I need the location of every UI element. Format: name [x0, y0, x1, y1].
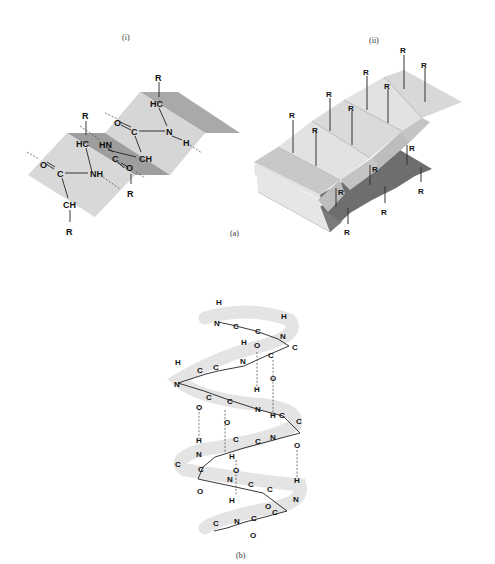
svg-text:C: C — [251, 514, 257, 523]
svg-text:N: N — [280, 332, 286, 341]
svg-text:R: R — [338, 188, 344, 197]
atom-h: H — [183, 138, 190, 148]
svg-text:H: H — [241, 338, 247, 347]
label-ii: (ii) — [369, 36, 379, 45]
svg-text:C: C — [227, 397, 233, 406]
atom-nh: NH — [90, 169, 103, 179]
svg-text:C: C — [213, 519, 219, 528]
svg-text:O: O — [254, 341, 260, 350]
svg-text:N: N — [174, 380, 180, 389]
alpha-helix: H N C C H N C O H N C O C C H N O C C O … — [174, 298, 302, 540]
svg-text:N: N — [293, 495, 299, 504]
atom-r: R — [66, 227, 73, 237]
svg-text:C: C — [268, 351, 274, 360]
svg-text:R: R — [384, 82, 390, 91]
svg-text:C: C — [255, 437, 261, 446]
svg-text:C: C — [198, 465, 204, 474]
atom-o: O — [114, 118, 121, 128]
svg-text:N: N — [270, 433, 276, 442]
svg-text:O: O — [250, 531, 256, 540]
atom-hn: HN — [99, 140, 112, 150]
atom-hc: HC — [150, 99, 163, 109]
svg-text:N: N — [227, 475, 233, 484]
svg-text:C: C — [272, 508, 278, 517]
label-a: (a) — [230, 229, 239, 238]
svg-text:C: C — [213, 363, 219, 372]
svg-text:H: H — [175, 358, 181, 367]
svg-text:C: C — [248, 480, 254, 489]
svg-text:O: O — [270, 374, 276, 383]
label-i: (i) — [122, 33, 130, 42]
atom-o: O — [126, 163, 133, 173]
svg-text:N: N — [255, 405, 261, 414]
svg-text:O: O — [233, 466, 239, 475]
atom-c: C — [131, 127, 138, 137]
svg-text:O: O — [224, 418, 230, 427]
svg-text:N: N — [196, 450, 202, 459]
svg-text:R: R — [409, 144, 415, 153]
svg-text:R: R — [418, 187, 424, 196]
atom-c: C — [112, 154, 119, 164]
label-b: (b) — [236, 551, 246, 560]
atom-r: R — [155, 73, 162, 83]
svg-text:H: H — [270, 411, 276, 420]
svg-text:C: C — [175, 460, 181, 469]
atom-n: N — [166, 127, 173, 137]
svg-text:R: R — [381, 208, 387, 217]
svg-text:H: H — [196, 436, 202, 445]
svg-text:H: H — [216, 298, 222, 307]
svg-text:N: N — [234, 517, 240, 526]
svg-text:O: O — [294, 441, 300, 450]
svg-text:C: C — [233, 435, 239, 444]
svg-text:H: H — [294, 476, 300, 485]
svg-text:N: N — [240, 357, 246, 366]
beta-sheet-detail: (i) R HC O — [27, 33, 240, 237]
svg-text:C: C — [292, 343, 298, 352]
svg-text:C: C — [255, 327, 261, 336]
svg-text:N: N — [214, 319, 220, 328]
protein-structure-figure: (i) R HC O — [0, 0, 495, 564]
atom-ch: CH — [63, 200, 76, 210]
svg-text:H: H — [229, 452, 235, 461]
svg-text:R: R — [400, 46, 406, 55]
atom-r: R — [82, 111, 89, 121]
svg-text:R: R — [348, 104, 354, 113]
svg-text:R: R — [421, 61, 427, 70]
svg-text:O: O — [196, 403, 202, 412]
svg-text:R: R — [363, 68, 369, 77]
svg-text:C: C — [197, 366, 203, 375]
svg-text:R: R — [326, 90, 332, 99]
atom-ch: CH — [139, 154, 152, 164]
svg-text:H: H — [254, 385, 260, 394]
svg-text:R: R — [312, 126, 318, 135]
svg-text:C: C — [206, 393, 212, 402]
svg-text:R: R — [289, 111, 295, 120]
svg-text:O: O — [265, 502, 271, 511]
svg-text:C: C — [279, 411, 285, 420]
svg-text:R: R — [372, 165, 378, 174]
svg-text:H: H — [281, 312, 287, 321]
atom-o: O — [40, 160, 47, 170]
svg-text:C: C — [267, 485, 273, 494]
atom-hc: HC — [76, 139, 89, 149]
svg-text:C: C — [233, 322, 239, 331]
atom-r: R — [127, 189, 134, 199]
svg-text:O: O — [197, 487, 203, 496]
atom-c: C — [57, 169, 64, 179]
svg-text:H: H — [229, 496, 235, 505]
beta-sheet-pleated: (ii) R R R R R R R — [254, 36, 462, 237]
svg-text:R: R — [344, 228, 350, 237]
svg-text:C: C — [296, 417, 302, 426]
